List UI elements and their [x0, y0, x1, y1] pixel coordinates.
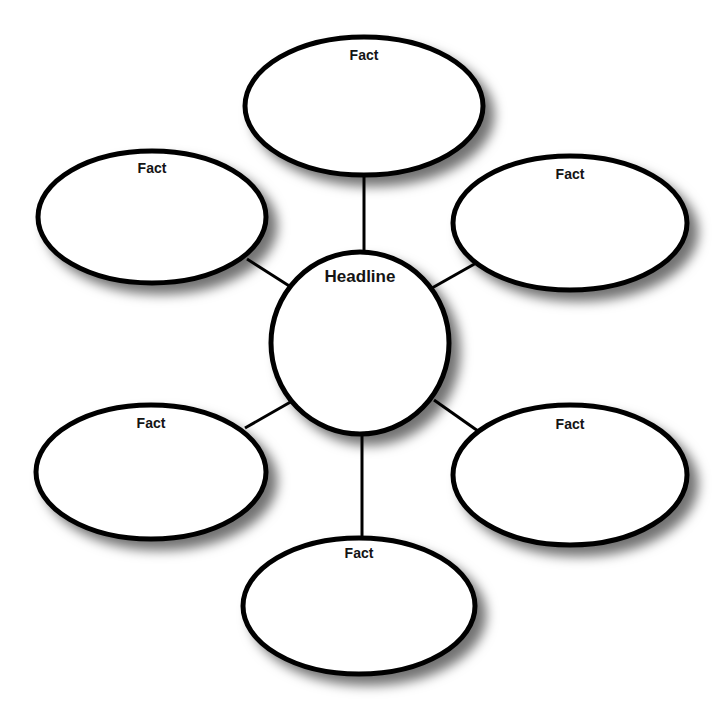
diagram-canvas: HeadlineFactFactFactFactFactFact [0, 0, 727, 720]
node-label-fact-lower-right: Fact [556, 416, 585, 432]
node-label-fact-lower-left: Fact [137, 415, 166, 431]
node-label-fact-upper-right: Fact [556, 166, 585, 182]
node-label-fact-top: Fact [350, 47, 379, 63]
connector-upper-left [247, 259, 294, 289]
connector-upper-right [432, 262, 478, 288]
connector-lower-right [434, 400, 478, 431]
connector-lower-left [245, 400, 294, 428]
node-label-headline: Headline [325, 267, 396, 286]
web-organizer-diagram: HeadlineFactFactFactFactFactFact [0, 0, 727, 720]
node-layer [36, 37, 687, 674]
node-label-fact-bottom: Fact [345, 545, 374, 561]
node-label-fact-upper-left: Fact [138, 160, 167, 176]
